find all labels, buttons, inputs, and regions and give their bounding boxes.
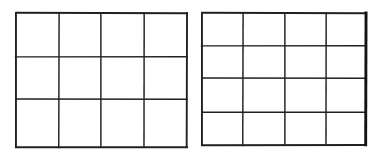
left-grid-svg — [14, 11, 189, 149]
right-grid-svg — [200, 11, 368, 147]
right-grid-figure — [200, 11, 364, 143]
diagram-canvas — [0, 0, 374, 156]
left-grid-figure — [14, 11, 185, 145]
